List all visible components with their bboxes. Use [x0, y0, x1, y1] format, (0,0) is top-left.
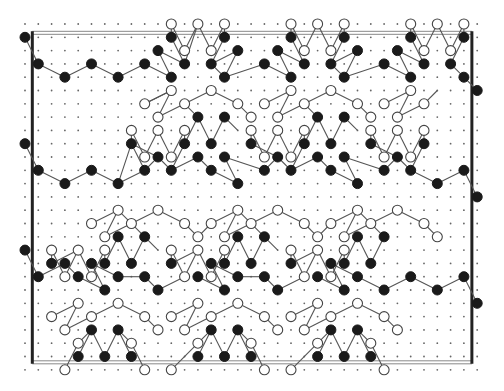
- grid-dot: [317, 90, 319, 92]
- grid-dot: [410, 50, 412, 52]
- grid-dot: [37, 369, 39, 371]
- grid-dot: [303, 36, 305, 38]
- grid-dot: [476, 156, 478, 158]
- grid-dot: [450, 316, 452, 318]
- grid-dot: [24, 130, 26, 132]
- grid-dot: [330, 369, 332, 371]
- open-node: [353, 205, 363, 215]
- grid-dot: [330, 116, 332, 118]
- grid-dot: [51, 183, 53, 185]
- grid-dot: [170, 103, 172, 105]
- grid-dot: [317, 183, 319, 185]
- open-node: [286, 86, 296, 96]
- filled-node: [259, 165, 269, 175]
- grid-dot: [237, 169, 239, 171]
- open-node: [100, 245, 110, 255]
- grid-dot: [37, 196, 39, 198]
- grid-dot: [410, 116, 412, 118]
- grid-dot: [91, 209, 93, 211]
- grid-dot: [37, 236, 39, 238]
- open-node: [299, 272, 309, 282]
- grid-dot: [144, 23, 146, 25]
- grid-dot: [197, 76, 199, 78]
- grid-dot: [476, 276, 478, 278]
- grid-dot: [184, 36, 186, 38]
- grid-dot: [117, 116, 119, 118]
- grid-dot: [117, 143, 119, 145]
- grid-dot: [397, 223, 399, 225]
- grid-dot: [383, 249, 385, 251]
- open-node: [193, 19, 203, 29]
- grid-dot: [64, 209, 66, 211]
- grid-dot: [131, 369, 133, 371]
- grid-dot: [330, 356, 332, 358]
- grid-dot: [144, 183, 146, 185]
- grid-dot: [131, 183, 133, 185]
- grid-dot: [197, 263, 199, 265]
- grid-dot: [91, 369, 93, 371]
- grid-dot: [423, 289, 425, 291]
- grid-dot: [436, 329, 438, 331]
- grid-dot: [357, 342, 359, 344]
- filled-node: [60, 258, 70, 268]
- grid-dot: [237, 289, 239, 291]
- grid-dot: [77, 156, 79, 158]
- grid-dot: [264, 209, 266, 211]
- grid-dot: [157, 196, 159, 198]
- grid-dot: [77, 196, 79, 198]
- grid-dot: [303, 302, 305, 304]
- grid-dot: [410, 130, 412, 132]
- grid-dot: [237, 356, 239, 358]
- open-node: [313, 245, 323, 255]
- open-node: [259, 152, 269, 162]
- filled-node: [379, 59, 389, 69]
- grid-dot: [370, 36, 372, 38]
- grid-dot: [184, 183, 186, 185]
- grid-dot: [144, 302, 146, 304]
- grid-dot: [277, 369, 279, 371]
- grid-dot: [210, 116, 212, 118]
- filled-node: [47, 258, 57, 268]
- grid-dot: [250, 302, 252, 304]
- grid-dot: [37, 76, 39, 78]
- filled-node: [472, 298, 482, 308]
- grid-dot: [64, 249, 66, 251]
- filled-node: [233, 179, 243, 189]
- grid-dot: [277, 169, 279, 171]
- filled-node: [60, 72, 70, 82]
- grid-dot: [303, 169, 305, 171]
- grid-dot: [463, 342, 465, 344]
- grid-dot: [157, 369, 159, 371]
- grid-dot: [370, 76, 372, 78]
- filled-node: [220, 285, 230, 295]
- grid-dot: [303, 342, 305, 344]
- grid-dot: [450, 236, 452, 238]
- grid-dot: [157, 76, 159, 78]
- grid-dot: [117, 249, 119, 251]
- grid-dot: [131, 196, 133, 198]
- filled-node: [140, 59, 150, 69]
- grid-dot: [303, 236, 305, 238]
- grid-dot: [450, 209, 452, 211]
- grid-dot: [436, 143, 438, 145]
- grid-dot: [463, 143, 465, 145]
- grid-dot: [64, 143, 66, 145]
- grid-dot: [144, 209, 146, 211]
- grid-dot: [370, 249, 372, 251]
- grid-dot: [157, 263, 159, 265]
- grid-dot: [210, 356, 212, 358]
- lattice-diagram: [0, 0, 504, 391]
- grid-dot: [144, 76, 146, 78]
- grid-dot: [436, 156, 438, 158]
- grid-dot: [104, 276, 106, 278]
- grid-dot: [450, 329, 452, 331]
- open-node: [459, 19, 469, 29]
- filled-node: [206, 325, 216, 335]
- grid-dot: [436, 223, 438, 225]
- open-node: [206, 46, 216, 56]
- grid-dot: [370, 196, 372, 198]
- grid-dot: [330, 249, 332, 251]
- grid-dot: [450, 103, 452, 105]
- grid-dot: [343, 316, 345, 318]
- open-node: [206, 312, 216, 322]
